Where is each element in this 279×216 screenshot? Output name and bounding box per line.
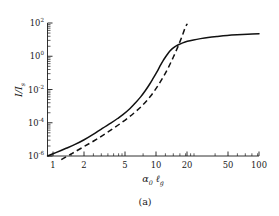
x-tick-label: 10 — [151, 160, 162, 170]
y-axis-tick-labels: 10-6 10-4 10-2 100 102 — [28, 17, 45, 161]
x-axis-title: α0 ℓg — [142, 173, 164, 187]
series-asymptote-dashed — [61, 24, 187, 160]
figure-panel: 10-6 10-4 10-2 100 102 1 2 5 10 20 50 10… — [0, 0, 279, 216]
caption-label: (a) — [138, 196, 151, 207]
x-tick-label: 2 — [81, 160, 86, 170]
axes-spines — [48, 23, 260, 156]
svg-text:I/Is: I/Is — [13, 82, 27, 98]
x-axis-major-ticks — [53, 152, 259, 157]
x-tick-label: 100 — [251, 160, 267, 170]
y-tick-label: 100 — [30, 50, 45, 61]
y-tick-label: 10-6 — [28, 150, 45, 161]
y-axis-title: I/Is — [13, 82, 27, 98]
x-tick-label: 1 — [50, 160, 55, 170]
series-full-solution-solid — [48, 34, 260, 156]
data-series-layer — [48, 24, 260, 160]
svg-text:α0 ℓg: α0 ℓg — [142, 173, 164, 187]
x-tick-label: 5 — [122, 160, 127, 170]
chart-canvas: 10-6 10-4 10-2 100 102 1 2 5 10 20 50 10… — [0, 0, 279, 216]
y-tick-label: 10-4 — [28, 117, 45, 128]
x-tick-label: 50 — [223, 160, 234, 170]
y-tick-label: 10-2 — [28, 84, 45, 95]
x-tick-label: 20 — [182, 160, 193, 170]
y-tick-label: 102 — [30, 17, 45, 28]
panel-caption: (a) — [138, 196, 151, 207]
x-axis-tick-labels: 1 2 5 10 20 50 100 — [50, 160, 267, 170]
